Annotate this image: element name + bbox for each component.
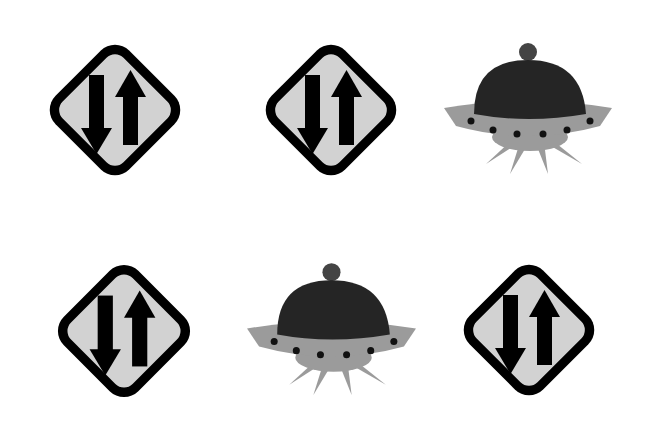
two-way-traffic-sign-icon (43, 250, 205, 412)
ufo-icon (440, 42, 616, 174)
ufo-icon (243, 262, 420, 395)
two-way-traffic-sign-icon (251, 30, 411, 190)
two-way-traffic-sign-icon (35, 30, 195, 190)
two-way-traffic-sign-icon (449, 250, 609, 410)
